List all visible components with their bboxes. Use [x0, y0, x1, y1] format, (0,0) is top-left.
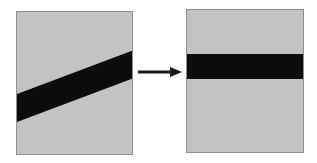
horizontal-band	[187, 54, 303, 79]
deskewed-page-panel: Deskewed page	[186, 9, 304, 153]
skewed-page-panel: Skewed page	[16, 11, 133, 155]
skewed-band	[17, 12, 133, 155]
